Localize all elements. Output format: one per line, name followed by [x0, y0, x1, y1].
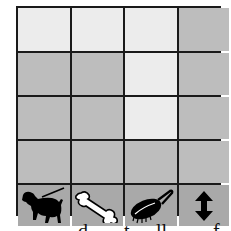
board-cell-r2-c2[interactable]: [72, 53, 123, 95]
board-cell-r1-c3[interactable]: [125, 8, 177, 51]
tool-bone-button[interactable]: [72, 185, 123, 226]
bone-icon: [75, 189, 121, 223]
puzzle-board: [16, 6, 221, 216]
board-cell-r1-c1[interactable]: [18, 8, 70, 51]
tool-move-button[interactable]: [179, 185, 229, 226]
board-cell-r1-c2[interactable]: [72, 8, 123, 51]
dog-on-leash-icon: [20, 187, 68, 225]
board-cell-r4-c4[interactable]: [179, 141, 229, 183]
board-cell-r3-c1[interactable]: [18, 97, 70, 139]
board-cell-r3-c4[interactable]: [179, 97, 229, 139]
board-cell-r4-c2[interactable]: [72, 141, 123, 183]
board-cell-r4-c3[interactable]: [125, 141, 177, 183]
hairbrush-icon: [128, 188, 174, 224]
clipped-caption: d t ll f: [0, 221, 231, 231]
tool-walk-dog-button[interactable]: [18, 185, 70, 226]
board-cell-r2-c3[interactable]: [125, 53, 177, 95]
board-cell-r1-c4[interactable]: [179, 8, 229, 51]
board-cell-r2-c4[interactable]: [179, 53, 229, 95]
up-down-arrow-icon: [194, 190, 214, 222]
board-cell-r3-c3[interactable]: [125, 97, 177, 139]
board-cell-r2-c1[interactable]: [18, 53, 70, 95]
board-cell-r4-c1[interactable]: [18, 141, 70, 183]
board-cell-r3-c2[interactable]: [72, 97, 123, 139]
tool-brush-button[interactable]: [125, 185, 177, 226]
